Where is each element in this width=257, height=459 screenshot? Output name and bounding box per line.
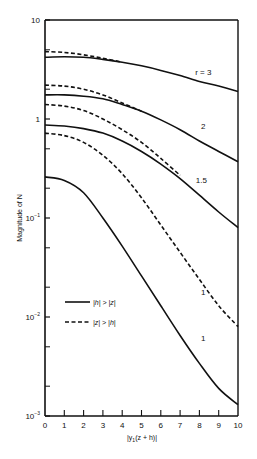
x-tick-label: 4 (120, 421, 125, 430)
y-tick-label: 10−1 (25, 212, 40, 223)
x-tick-label: 8 (197, 421, 202, 430)
curve-label: 1.5 (196, 176, 208, 185)
y-axis-ticks: 10110−110−210−3 (25, 16, 50, 421)
x-tick-label: 5 (139, 421, 144, 430)
y-axis-title: Magnitude of N (16, 194, 24, 241)
y-tick-label: 10−3 (25, 410, 40, 421)
curve-r2-dashed (45, 85, 142, 111)
curve-label: 2 (201, 122, 206, 131)
y-tick-label: 1 (36, 115, 41, 124)
x-axis-title-suffix: (z + h)| (135, 434, 157, 442)
x-tick-label: 7 (178, 421, 183, 430)
x-tick-label: 1 (62, 421, 67, 430)
legend: |h| > |z| |z| > |h| (65, 299, 116, 327)
curve-r1_5-solid (45, 125, 238, 228)
x-tick-label: 3 (101, 421, 106, 430)
legend-solid-label: |h| > |z| (93, 299, 116, 307)
curve-r1-dashed (45, 133, 238, 327)
x-tick-label: 9 (216, 421, 221, 430)
magnitude-of-n-chart: 10110−110−210−3 012345678910 r = 321.511… (0, 0, 257, 459)
plot-frame (45, 20, 238, 416)
x-axis-title: |y1(z + h)| (127, 434, 157, 443)
x-tick-label: 0 (43, 421, 48, 430)
x-tick-label: 2 (81, 421, 86, 430)
y-tick-label: 10 (31, 16, 40, 25)
curve-r1_5-dashed (45, 105, 180, 176)
curve-label: 1 (201, 334, 206, 343)
curve-r1-solid (45, 177, 238, 405)
curve-label: 1 (201, 288, 206, 297)
y-tick-label: 10−2 (25, 311, 40, 322)
legend-dashed-label: |z| > |h| (93, 319, 116, 327)
x-tick-label: 6 (159, 421, 164, 430)
x-axis-ticks: 012345678910 (43, 410, 243, 430)
curves (45, 52, 238, 405)
x-tick-label: 10 (234, 421, 243, 430)
curve-label: r = 3 (195, 68, 212, 77)
curve-labels: r = 321.511 (195, 68, 212, 343)
